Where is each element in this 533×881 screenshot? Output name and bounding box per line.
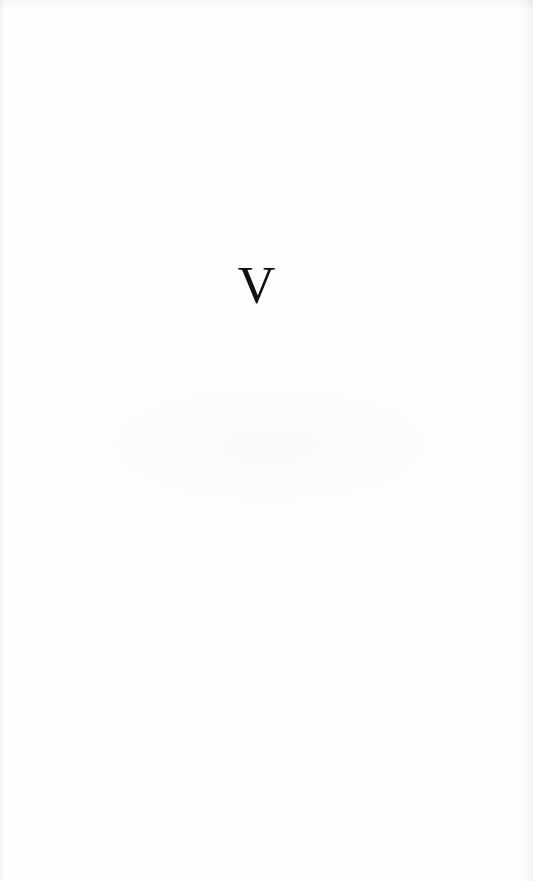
gutter-shadow — [521, 0, 533, 881]
section-numeral: V — [0, 256, 513, 316]
scan-edge-left — [0, 0, 5, 881]
book-page: V — [0, 0, 533, 881]
bleed-through-texture — [40, 360, 500, 530]
